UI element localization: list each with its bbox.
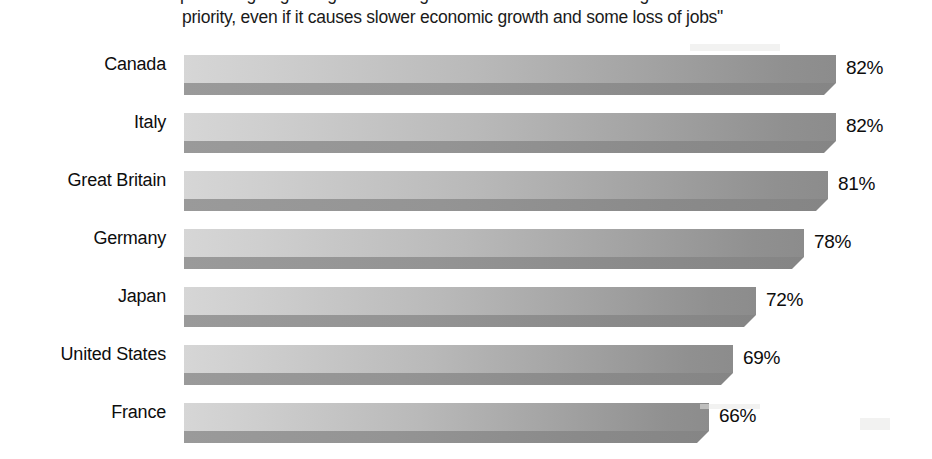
- bar-row: France66%: [0, 403, 932, 459]
- horizontal-bar-chart: Canada82%Italy82%Great Britain81%Germany…: [0, 0, 932, 459]
- bar-value-label: 72%: [766, 290, 803, 309]
- bar-row: Germany78%: [0, 229, 932, 287]
- bar-value-label: 82%: [846, 58, 883, 77]
- bar: [184, 171, 828, 211]
- category-label: Japan: [0, 287, 166, 305]
- bar-top-face: [184, 229, 804, 257]
- bar: [184, 113, 836, 153]
- bar-row: Japan72%: [0, 287, 932, 345]
- bar: [184, 403, 709, 443]
- bar-side-face: [184, 315, 756, 327]
- bar-row: Italy82%: [0, 113, 932, 171]
- bar: [184, 55, 836, 95]
- bar: [184, 345, 733, 385]
- category-label: United States: [0, 345, 166, 363]
- bar-row: Great Britain81%: [0, 171, 932, 229]
- bar-side-face: [184, 373, 733, 385]
- bar-value-label: 82%: [846, 116, 883, 135]
- bar-side-face: [184, 257, 804, 269]
- category-label: Canada: [0, 55, 166, 73]
- bar-value-label: 66%: [719, 406, 756, 425]
- bar-side-face: [184, 199, 828, 211]
- bar-side-face: [184, 431, 709, 443]
- bar-top-face: [184, 113, 836, 141]
- category-label: Germany: [0, 229, 166, 247]
- bar-row: United States69%: [0, 345, 932, 403]
- bar-row: Canada82%: [0, 55, 932, 113]
- bar: [184, 229, 804, 269]
- bar-value-label: 78%: [814, 232, 851, 251]
- bar-top-face: [184, 55, 836, 83]
- bar-value-label: 69%: [743, 348, 780, 367]
- bar-top-face: [184, 287, 756, 315]
- bar-side-face: [184, 141, 836, 153]
- bar-top-face: [184, 345, 733, 373]
- bar-value-label: 81%: [838, 174, 875, 193]
- bar-side-face: [184, 83, 836, 95]
- bar-top-face: [184, 403, 709, 431]
- category-label: Italy: [0, 113, 166, 131]
- category-label: France: [0, 403, 166, 421]
- bar: [184, 287, 756, 327]
- category-label: Great Britain: [0, 171, 166, 189]
- bar-top-face: [184, 171, 828, 199]
